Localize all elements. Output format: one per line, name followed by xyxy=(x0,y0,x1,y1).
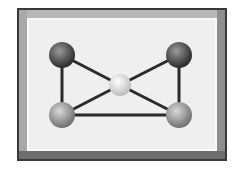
molecule-diagram xyxy=(0,0,240,172)
atom-bottom-right xyxy=(166,102,192,128)
atom-center xyxy=(109,74,131,96)
atom-top-right xyxy=(166,42,192,68)
atom-top-left xyxy=(49,42,75,68)
atom-bottom-left xyxy=(49,102,75,128)
